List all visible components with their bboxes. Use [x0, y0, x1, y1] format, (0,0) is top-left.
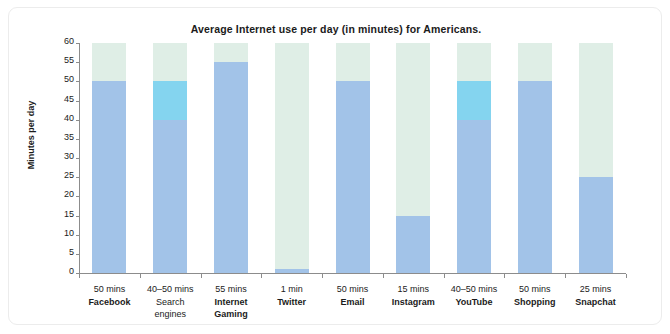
bar-fill	[153, 120, 187, 273]
x-tick-mark	[261, 274, 262, 278]
x-label-value: 25 mins	[565, 283, 626, 296]
y-tick-label: 45	[64, 94, 74, 104]
y-tick-label: 5	[69, 247, 74, 257]
y-tick-mark	[76, 158, 80, 159]
y-tick-label: 0	[69, 266, 74, 276]
x-label-name: YouTube	[444, 296, 505, 309]
x-label-name: Instagram	[383, 296, 444, 309]
x-tick-mark	[444, 274, 445, 278]
x-label-name: Snapchat	[565, 296, 626, 309]
x-axis-label: 1 minTwitter	[261, 283, 322, 308]
bar-column[interactable]	[518, 43, 552, 273]
plot-area: 051015202530354045505560 50 minsFacebook…	[79, 43, 626, 273]
x-axis-line	[79, 273, 626, 274]
y-tick-mark	[76, 62, 80, 63]
y-tick-label: 25	[64, 170, 74, 180]
x-tick-mark	[383, 274, 384, 278]
x-tick-mark	[140, 274, 141, 278]
chart-title: Average Internet use per day (in minutes…	[9, 23, 662, 35]
y-tick-mark	[76, 216, 80, 217]
bar-range-band	[457, 81, 491, 119]
bar-column[interactable]	[457, 43, 491, 273]
bar-column[interactable]	[336, 43, 370, 273]
y-tick-label: 20	[64, 189, 74, 199]
bar-column[interactable]	[396, 43, 430, 273]
bar-column[interactable]	[214, 43, 248, 273]
x-tick-mark	[201, 274, 202, 278]
y-tick-mark	[76, 196, 80, 197]
bar-range-band	[153, 81, 187, 119]
x-tick-mark	[322, 274, 323, 278]
y-tick-label: 55	[64, 55, 74, 65]
bar-fill	[336, 81, 370, 273]
x-axis-label: 25 minsSnapchat	[565, 283, 626, 308]
x-label-name: Internet	[201, 296, 262, 309]
bar-fill	[457, 120, 491, 273]
bar-track	[275, 43, 309, 273]
y-tick-label: 15	[64, 209, 74, 219]
bar-column[interactable]	[92, 43, 126, 273]
x-label-name: Gaming	[201, 308, 262, 321]
bar-fill	[579, 177, 613, 273]
y-tick-label: 40	[64, 113, 74, 123]
bar-fill	[275, 269, 309, 273]
x-axis-label: 40–50 minsSearch engines	[140, 283, 201, 321]
y-tick-mark	[76, 120, 80, 121]
x-tick-mark	[504, 274, 505, 278]
bar-column[interactable]	[153, 43, 187, 273]
x-axis-label: 50 minsFacebook	[79, 283, 140, 308]
y-axis-title: Minutes per day	[26, 80, 36, 190]
y-tick-label: 50	[64, 74, 74, 84]
x-label-name: Search engines	[140, 296, 201, 321]
x-label-name: Twitter	[261, 296, 322, 309]
y-tick-label: 60	[64, 36, 74, 46]
bar-fill	[396, 216, 430, 274]
x-label-value: 15 mins	[383, 283, 444, 296]
chart-card: Average Internet use per day (in minutes…	[8, 7, 662, 325]
x-label-value: 50 mins	[504, 283, 565, 296]
x-axis-label: 55 minsInternetGaming	[201, 283, 262, 321]
x-label-name: Shopping	[504, 296, 565, 309]
bar-fill	[518, 81, 552, 273]
x-label-name: Facebook	[79, 296, 140, 309]
x-tick-mark	[565, 274, 566, 278]
x-label-value: 40–50 mins	[444, 283, 505, 296]
x-axis-label: 50 minsShopping	[504, 283, 565, 308]
x-label-value: 40–50 mins	[140, 283, 201, 296]
x-label-value: 50 mins	[322, 283, 383, 296]
x-tick-mark	[626, 274, 627, 278]
y-tick-mark	[76, 43, 80, 44]
x-label-value: 55 mins	[201, 283, 262, 296]
y-tick-mark	[76, 139, 80, 140]
y-tick-label: 30	[64, 151, 74, 161]
y-tick-label: 10	[64, 228, 74, 238]
x-axis-label: 40–50 minsYouTube	[444, 283, 505, 308]
bar-fill	[92, 81, 126, 273]
x-label-name: Email	[322, 296, 383, 309]
x-label-value: 50 mins	[79, 283, 140, 296]
x-axis-label: 15 minsInstagram	[383, 283, 444, 308]
y-tick-mark	[76, 101, 80, 102]
bar-fill	[214, 62, 248, 273]
y-tick-label: 35	[64, 132, 74, 142]
x-label-value: 1 min	[261, 283, 322, 296]
y-tick-mark	[76, 254, 80, 255]
bar-column[interactable]	[579, 43, 613, 273]
y-tick-mark	[76, 235, 80, 236]
x-tick-mark	[79, 274, 80, 278]
y-tick-mark	[76, 81, 80, 82]
bar-column[interactable]	[275, 43, 309, 273]
y-tick-mark	[76, 177, 80, 178]
x-axis-label: 50 minsEmail	[322, 283, 383, 308]
